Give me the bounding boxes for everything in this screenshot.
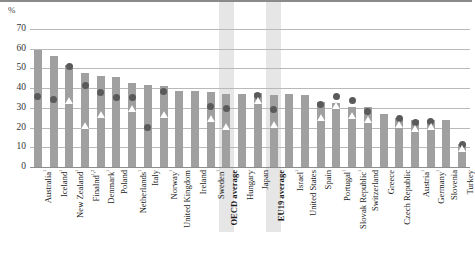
- bar: [301, 95, 309, 167]
- x-tick-label: Denmark¹: [104, 170, 116, 256]
- circle-marker: [82, 82, 89, 89]
- x-tick-label: OECD average: [230, 170, 239, 256]
- y-tick-label-40: 40: [0, 83, 26, 92]
- triangle-marker: [128, 105, 136, 112]
- triangle-marker: [395, 121, 403, 128]
- x-tick-label: Czech Republic: [403, 170, 412, 256]
- x-tick-label: United States: [309, 170, 318, 256]
- x-tick-label: Norway¹: [167, 170, 179, 256]
- triangle-marker: [332, 102, 340, 109]
- x-tick-label: Ireland: [199, 170, 208, 256]
- x-tick-label: Iceland¹: [57, 170, 69, 256]
- x-tick-label: Slovenia: [450, 170, 459, 256]
- x-axis-labels: Australia¹Iceland¹New Zealand¹Finalnd¹,²…: [30, 170, 470, 259]
- x-tick-label: Finalnd¹,²: [89, 170, 101, 256]
- triangle-marker: [317, 114, 325, 121]
- triangle-marker: [222, 123, 230, 130]
- y-tick-label-30: 30: [0, 103, 26, 112]
- bar: [380, 114, 388, 167]
- bar: [34, 50, 42, 167]
- bar: [65, 65, 73, 168]
- bar: [175, 91, 183, 167]
- triangle-marker: [207, 115, 215, 122]
- x-tick-label: Netherlands¹: [136, 170, 148, 256]
- x-tick-label: Switzerland: [371, 170, 380, 256]
- y-tick-label-10: 10: [0, 142, 26, 151]
- circle-marker: [129, 94, 136, 101]
- x-tick-label: Spain: [324, 170, 333, 256]
- circle-marker: [113, 94, 120, 101]
- triangle-marker: [254, 97, 262, 104]
- y-axis-unit-label: %: [8, 5, 16, 15]
- gridline-0: [30, 167, 470, 168]
- x-tick-label: Sweden¹: [214, 170, 226, 256]
- y-tick-label-60: 60: [0, 44, 26, 53]
- bar: [238, 94, 246, 167]
- x-tick-label: New Zealand¹: [73, 170, 85, 256]
- triangle-marker: [348, 112, 356, 119]
- bar: [191, 91, 199, 167]
- x-tick-label: Austria¹: [419, 170, 431, 256]
- y-tick-label-0: 0: [0, 162, 26, 171]
- triangle-marker: [364, 116, 372, 123]
- triangle-marker: [160, 111, 168, 118]
- triangle-marker: [65, 97, 73, 104]
- triangle-marker: [81, 122, 89, 129]
- y-tick-label-50: 50: [0, 63, 26, 72]
- triangle-marker: [411, 125, 419, 132]
- x-tick-label: United Kingdom: [183, 170, 192, 256]
- triangle-marker: [270, 121, 278, 128]
- bar: [50, 56, 58, 167]
- x-tick-label: Portugal¹: [340, 170, 352, 256]
- triangle-marker: [458, 145, 466, 152]
- bar: [285, 94, 293, 167]
- circle-marker: [349, 97, 356, 104]
- x-tick-label: Japan: [261, 170, 270, 256]
- bar: [442, 120, 450, 167]
- x-tick-label: Greece: [387, 170, 396, 256]
- circle-marker: [34, 93, 41, 100]
- circle-marker: [66, 63, 73, 70]
- y-axis-ticks: 010203040506070: [0, 29, 26, 167]
- x-tick-label: Poland: [120, 170, 129, 256]
- circle-marker: [160, 88, 167, 95]
- y-tick-label-70: 70: [0, 24, 26, 33]
- x-tick-label: Italy: [151, 170, 160, 256]
- x-tick-label: Turkey: [466, 170, 475, 256]
- bar: [317, 102, 325, 167]
- triangle-marker: [427, 123, 435, 130]
- triangle-marker: [97, 111, 105, 118]
- bar: [160, 86, 168, 167]
- x-tick-label: EU19 average: [277, 170, 286, 256]
- circle-marker: [333, 93, 340, 100]
- x-tick-label: Germany¹: [434, 170, 446, 256]
- bars-and-markers: [30, 29, 470, 167]
- x-tick-label: Australia¹: [41, 170, 53, 256]
- circle-marker: [97, 89, 104, 96]
- y-tick-label-20: 20: [0, 123, 26, 132]
- bar: [112, 77, 120, 167]
- x-tick-label: Israel¹: [293, 170, 305, 256]
- x-tick-label: Slovak Republic¹: [356, 170, 368, 256]
- bar: [332, 103, 340, 167]
- x-tick-label: Hungary: [246, 170, 255, 256]
